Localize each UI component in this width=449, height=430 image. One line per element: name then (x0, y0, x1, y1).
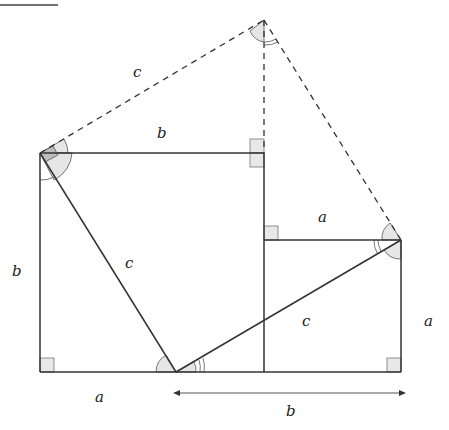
pythagoras-diagram: c b b c a c a a b (0, 0, 449, 430)
right-angle-marker-bottom-left (40, 358, 54, 372)
right-angle-marker-small-square (264, 226, 278, 240)
solid-edges (40, 153, 401, 372)
bottom-b-arrow (173, 390, 406, 396)
right-angle-marker-bottom-right (387, 358, 401, 372)
label-bottom-b: b (286, 402, 296, 420)
right-angle-marker-top-lower (250, 153, 264, 167)
label-bottom-a: a (95, 388, 104, 406)
label-left-b: b (12, 262, 22, 280)
label-top-b: b (157, 124, 167, 142)
label-top-left-c: c (133, 63, 142, 81)
dashed-edges (40, 20, 401, 240)
label-inner-c-left: c (125, 254, 134, 272)
right-angle-marker-top-upper (250, 139, 264, 153)
label-right-a: a (424, 312, 433, 330)
label-inner-c-right: c (302, 312, 311, 330)
label-small-top-a: a (318, 208, 327, 226)
